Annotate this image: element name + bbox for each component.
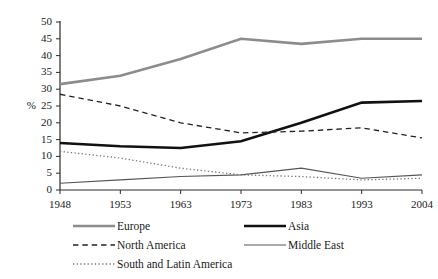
series-line-south-and-latin-america — [60, 151, 422, 180]
legend-entry-south-and-latin-america[interactable]: South and Latin America — [72, 256, 232, 272]
x-axis-tick-label: 1963 — [159, 199, 203, 210]
x-axis-tick-label: 2004 — [400, 199, 438, 210]
chart-legend: EuropeNorth AmericaSouth and Latin Ameri… — [0, 216, 432, 279]
legend-entry-label: North America — [116, 239, 186, 251]
legend-entry-label: South and Latin America — [116, 258, 232, 270]
x-axis-tick-label: 1948 — [38, 199, 82, 210]
legend-line-swatch-icon — [72, 258, 116, 270]
y-axis-tick-label: 45 — [30, 33, 52, 44]
x-axis-tick-label: 1953 — [98, 199, 142, 210]
legend-entry-label: Asia — [287, 220, 309, 232]
y-axis-tick-label: 10 — [30, 150, 52, 161]
plot-svg — [0, 0, 432, 215]
y-axis-tick-label: 30 — [30, 83, 52, 94]
legend-entry-europe[interactable]: Europe — [72, 218, 150, 234]
series-line-asia — [60, 101, 422, 148]
y-axis-tick-label: 20 — [30, 117, 52, 128]
legend-entry-middle-east[interactable]: Middle East — [243, 237, 344, 253]
x-axis-tick-label: 1973 — [219, 199, 263, 210]
legend-entry-label: Europe — [116, 220, 150, 232]
x-axis-tick-label: 1983 — [279, 199, 323, 210]
y-axis-tick-label: 25 — [30, 100, 52, 111]
x-axis-tick-label: 1993 — [340, 199, 384, 210]
series-line-north-america — [60, 94, 422, 138]
y-axis-tick-label: 35 — [30, 66, 52, 77]
legend-line-swatch-icon — [243, 220, 287, 232]
y-axis-tick-label: 50 — [30, 16, 52, 27]
series-line-middle-east — [60, 168, 422, 183]
legend-entry-label: Middle East — [287, 239, 344, 251]
legend-line-swatch-icon — [72, 220, 116, 232]
plot-area: % 50454035302520151050 19481953196319731… — [0, 0, 432, 215]
legend-line-swatch-icon — [243, 239, 287, 251]
y-axis-tick-label: 0 — [30, 184, 52, 195]
y-axis-tick-label: 15 — [30, 134, 52, 145]
y-axis-tick-label: 5 — [30, 167, 52, 178]
legend-entry-asia[interactable]: Asia — [243, 218, 309, 234]
legend-line-swatch-icon — [72, 239, 116, 251]
y-axis-tick-label: 40 — [30, 50, 52, 61]
legend-entry-north-america[interactable]: North America — [72, 237, 186, 253]
series-line-europe — [60, 39, 422, 84]
